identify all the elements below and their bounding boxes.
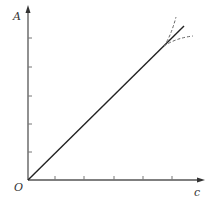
x-axis-arrow-icon bbox=[197, 178, 205, 183]
linear-series-line bbox=[28, 26, 184, 180]
x-axis-label: c bbox=[194, 186, 200, 199]
chart: A O c bbox=[0, 0, 210, 203]
origin-label: O bbox=[14, 181, 23, 194]
y-axis-label: A bbox=[12, 10, 21, 23]
upper-dashed-curve bbox=[164, 17, 176, 46]
y-axis-arrow-icon bbox=[26, 5, 31, 13]
